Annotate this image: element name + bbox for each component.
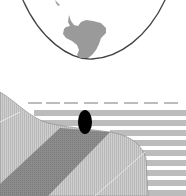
landmass-fragment [55,0,60,6]
marker-oval [78,110,92,134]
globe-svg [0,0,186,62]
cross-section-diagram [0,92,186,196]
cross-section-svg [0,92,186,196]
antarctica-landmass [63,15,106,58]
globe-illustration [0,0,186,62]
